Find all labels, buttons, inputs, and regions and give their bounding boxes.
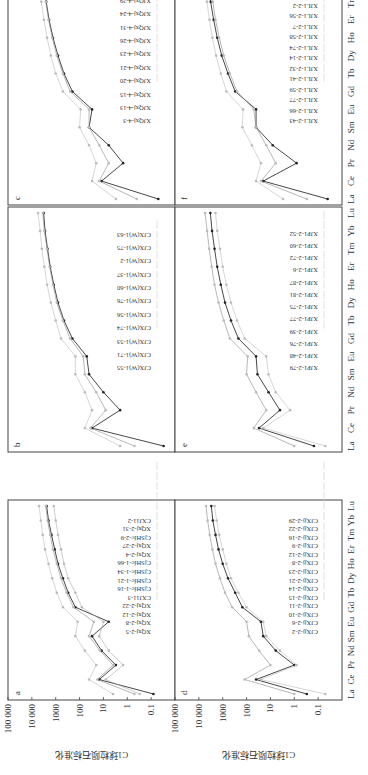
legend-entry: CJX(W)1-63 (117, 231, 151, 239)
x-tick-label: La (346, 441, 356, 451)
x-tick-label: Tb (346, 587, 356, 597)
legend-entry: CJXjj-2-29 (289, 518, 318, 525)
legend-entry: XJL1-2-43 (289, 118, 318, 125)
legend-entry: CJXjj-2-9 (292, 543, 318, 550)
legend-entry: XJP1-2-6 (292, 267, 318, 274)
legend-entry: XJL1-2-77 (289, 97, 318, 104)
x-tick-label: Nd (346, 139, 356, 150)
legend-entry: CJXjj-2-16 (288, 535, 318, 542)
x-tick-label: Gd (346, 332, 356, 343)
legend-entry: XQxj-2-31 (122, 526, 151, 533)
legend-entry: CJX(W)1-74 (116, 324, 151, 332)
legend-entry: XJQxj-4-23 (120, 51, 151, 58)
x-tick-label: Er (346, 263, 356, 272)
x-tick-label: Dy (346, 50, 356, 61)
x-tick-label: Tm (346, 0, 356, 8)
panel-a-label: a (12, 691, 22, 695)
legend-entry: CJX(W)1-53 (117, 338, 151, 346)
x-tick-label: Gd (346, 601, 356, 612)
y-tick-label: 100 000 (3, 704, 13, 734)
legend-entry: XJP1-2-52 (290, 231, 318, 238)
legend-entry: CJXjj-2-8 (292, 560, 318, 567)
panel-f-label: f (179, 197, 189, 200)
x-tick-label: La (346, 689, 356, 699)
x-tick-label: Sm (346, 368, 356, 380)
legend-entry: XJQxj-4-20 (120, 78, 151, 85)
legend-entry: XJQxj-4-21 (120, 65, 151, 72)
legend-entry: CJXjj-2-2 (292, 629, 318, 636)
x-tick-label: Pr (346, 159, 356, 167)
x-tick-label: Ce (346, 675, 356, 685)
x-tick-label: Yb (346, 225, 356, 236)
legend-entry: XJL1-2-2 (293, 3, 318, 10)
legend-entry: CjSHfc-1-16 (117, 586, 151, 593)
legend-entry: CJX(W)1-37 (116, 271, 151, 279)
x-tick-label: Pr (346, 406, 356, 414)
legend-entry: XJP1-2-48 (290, 353, 318, 360)
y-axis-title: C1球粒陨石标准化 (55, 750, 129, 761)
y-tick-label: 1000 (51, 704, 61, 723)
legend-entry: CJX(W)1-55 (117, 364, 151, 372)
legend-entry: CJXjj-2-12 (289, 552, 318, 559)
legend-entry: XQxj-2-12 (122, 612, 151, 619)
legend-entry: CJXjj-2-21 (289, 578, 318, 585)
legend-entry: CJXjj-2-23 (289, 569, 318, 576)
panel-d-label: d (179, 690, 189, 695)
y-tick-label: 100 000 (170, 704, 180, 734)
legend-entry: XJL1-2-41 (289, 76, 318, 83)
legend-entry: CXJ11-2 (128, 518, 151, 525)
legend-entry: CjSHfc-2-9 (121, 535, 151, 542)
y-axis-title: C1球粒陨石标准化 (222, 750, 296, 761)
x-tick-label: Dy (346, 297, 356, 308)
x-tick-label: Tm (346, 243, 356, 256)
x-tick-label: Pr (346, 661, 356, 669)
x-tick-label: Eu (346, 104, 356, 114)
y-tick-label: 1 (289, 704, 299, 709)
ree-pattern-chart: a100 00010 00010001001010.1C1球粒陨石标准化XQxj… (0, 0, 368, 775)
legend-entry: XJQxj-4-31 (120, 25, 151, 32)
legend-entry: XJL1-2-32 (289, 66, 318, 73)
legend-entry: XQxj-2-22 (122, 603, 151, 610)
legend-entry: XJP1-2-75 (290, 304, 318, 311)
legend-entry: CJX(W)1-71 (117, 351, 151, 359)
x-tick-label: Ho (346, 32, 356, 43)
legend-entry: XJQxj-4-13 (120, 105, 151, 112)
ree-figure: a100 00010 00010001001010.1C1球粒陨石标准化XQxj… (0, 0, 368, 775)
legend-entry: XQxj-2-27 (122, 543, 151, 550)
legend-entry: XJL1-2-74 (289, 45, 318, 52)
legend-entry: XJP1-2-76 (289, 341, 318, 348)
legend-entry: XJP1-2-79 (290, 365, 318, 372)
y-tick-label: 10 000 (194, 704, 204, 729)
legend-entry: XQxj-2-5 (126, 629, 151, 636)
panel-b-label: b (12, 442, 22, 447)
y-tick-label: 1 (122, 704, 132, 709)
legend-entry: XQxj-2-4 (125, 552, 151, 559)
legend-entry: CjSHfc-1-34 (117, 569, 151, 576)
panel-e-label: e (179, 443, 189, 447)
x-tick-label: Eu (346, 616, 356, 626)
x-tick-label: Tb (346, 68, 356, 78)
legend-entry: XJP1-2-81 (290, 292, 318, 299)
y-tick-label: 10 000 (27, 704, 37, 729)
x-tick-label: Ho (346, 279, 356, 290)
y-tick-label: 100 (75, 704, 85, 718)
legend-entry: XJQxj-4-3 (123, 118, 151, 125)
x-tick-label: Tm (346, 529, 356, 542)
legend-entry: XJL1-2-66 (289, 108, 318, 115)
legend-entry: XJL1-2-58 (289, 34, 318, 41)
legend-entry: CJXjj-2-6 (291, 620, 318, 627)
y-tick-label: 0.1 (313, 704, 323, 715)
legend-entry: CJXjj-2-10 (289, 612, 318, 619)
legend-entry: CJXjj-2-22 (289, 526, 318, 533)
legend-entry: XJL1-2-56 (289, 13, 318, 20)
x-tick-label: Ce (346, 176, 356, 186)
legend-entry: XJL1-2-14 (289, 55, 318, 62)
x-tick-label: Eu (346, 351, 356, 361)
legend-entry: CJXjj-2-11 (289, 603, 318, 610)
legend-entry: CJX(W)1-76 (116, 297, 151, 305)
x-tick-label: Tb (346, 315, 356, 325)
y-tick-label: 10 (98, 704, 108, 714)
x-tick-label: Dy (346, 572, 356, 583)
legend-entry: XJP1-2-60 (290, 243, 318, 250)
y-tick-label: 1000 (218, 704, 228, 723)
